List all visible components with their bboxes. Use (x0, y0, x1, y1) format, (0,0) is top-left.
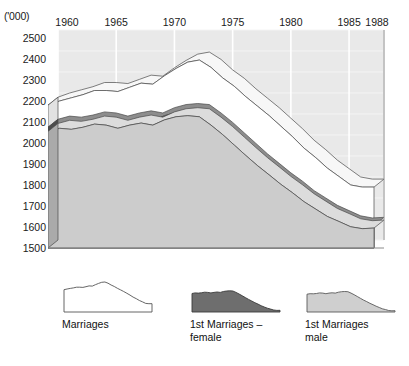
area-swatch-dark-icon (190, 272, 282, 314)
x-tick-label: 1975 (221, 16, 244, 28)
y-tick-label: 2100 (2, 116, 46, 128)
area-swatch-white-icon (62, 272, 154, 314)
x-tick-label: 1980 (279, 16, 302, 28)
x-tick-label: 1970 (163, 16, 186, 28)
x-tick-label: 1960 (55, 16, 78, 28)
x-tick-label: 1988 (365, 16, 388, 28)
x-tick-label: 1965 (105, 16, 128, 28)
y-tick-label: 2400 (2, 53, 46, 65)
series-side-face (48, 123, 58, 248)
chart-figure: ('000) 250024002300220021002000190018001… (0, 0, 409, 366)
stacked-area-3d-plot (48, 28, 388, 250)
y-tick-label: 1900 (2, 158, 46, 170)
legend-item[interactable]: 1st Marriages male (305, 272, 397, 343)
y-tick-label: 1800 (2, 179, 46, 191)
y-tick-label: 2200 (2, 95, 46, 107)
y-tick-label: 1600 (2, 221, 46, 233)
legend-item-label: Marriages (62, 318, 154, 331)
legend-item[interactable]: 1st Marriages – female (190, 272, 282, 343)
chart-legend: Marriages1st Marriages – female1st Marri… (0, 272, 409, 366)
legend-item-label: 1st Marriages male (305, 318, 397, 343)
y-tick-label: 2000 (2, 137, 46, 149)
x-tick-label: 1985 (337, 16, 360, 28)
x-axis-tick-labels: 1960196519701975198019851988 (0, 0, 409, 20)
y-tick-label: 1700 (2, 200, 46, 212)
y-tick-label: 2500 (2, 32, 46, 44)
legend-item-label: 1st Marriages – female (190, 318, 282, 343)
legend-item[interactable]: Marriages (62, 272, 154, 331)
area-swatch-light-icon (305, 272, 397, 314)
y-tick-label: 2300 (2, 74, 46, 86)
plot-area (48, 28, 388, 250)
y-tick-label: 1500 (2, 242, 46, 254)
